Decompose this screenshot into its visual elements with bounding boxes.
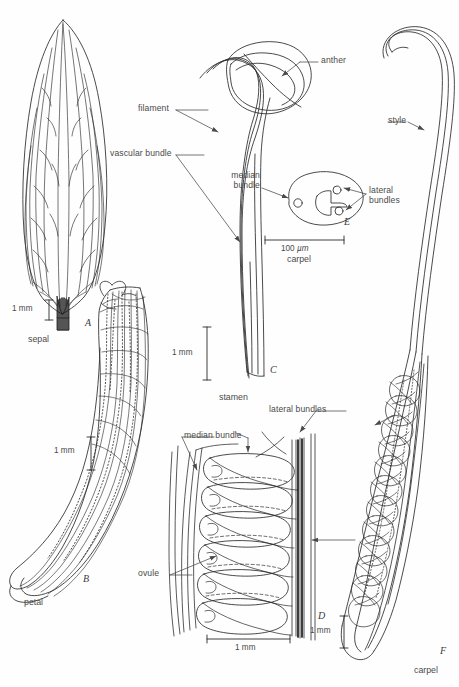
label-median-bundle-d: median bundle <box>184 431 242 441</box>
panel-letter-c: C <box>270 364 277 375</box>
label-anther: anther <box>321 56 346 66</box>
filament-outline <box>200 57 270 378</box>
scale-bar-b <box>87 437 95 470</box>
label-lateral-bundles-d: lateral bundles <box>269 405 326 415</box>
plate-linework <box>0 0 459 687</box>
scale-bar-d <box>207 635 290 643</box>
organ-name-carpel-e: carpel <box>287 254 311 264</box>
scale-bar-c <box>203 327 211 380</box>
scale-label-c: 1 mm <box>172 348 192 357</box>
label-style: style <box>388 116 406 126</box>
leader-lines <box>170 62 424 575</box>
organ-name-carpel-f: carpel <box>414 665 438 675</box>
label-vascular-bundle: vascular bundle <box>110 149 172 159</box>
ovule-detail-left-wall <box>169 446 202 636</box>
label-filament: filament <box>138 104 169 114</box>
panel-letter-d: D <box>318 610 325 621</box>
sepal-venation <box>25 22 104 306</box>
carpel-body-outline <box>341 350 428 660</box>
panel-letter-b: B <box>83 573 89 584</box>
organ-name-stamen: stamen <box>219 392 248 402</box>
ovule-detail-ovules <box>196 454 294 635</box>
label-median-bundle-e-line1: median <box>231 170 260 180</box>
label-median-bundle-e-line2: bundle <box>234 180 260 190</box>
label-lateral-bundles-e-line2: bundles <box>369 195 400 205</box>
panel-letter-a: A <box>85 317 91 328</box>
organ-name-petal: petal <box>24 597 43 607</box>
scale-label-b: 1 mm <box>54 446 74 455</box>
carpel-cross-section <box>289 172 363 226</box>
panel-letter-e: E <box>344 216 350 227</box>
label-ovule: ovule <box>138 569 159 579</box>
label-lateral-bundles-e: lateral bundles <box>369 186 400 206</box>
figure-plate: anther filament vascular bundle median b… <box>0 0 459 687</box>
scale-label-f: 1 mm <box>310 626 330 635</box>
panel-letter-f: F <box>440 645 446 656</box>
scale-label-e-unit: µm <box>297 244 309 253</box>
organ-name-sepal: sepal <box>28 334 49 344</box>
scale-label-d: 1 mm <box>235 643 255 652</box>
scale-bar-e <box>265 236 344 244</box>
scale-bar-a <box>45 300 53 320</box>
scale-label-e-value: 100 <box>281 244 297 253</box>
label-lateral-bundles-e-line1: lateral <box>369 185 393 195</box>
label-median-bundle-e: median bundle <box>228 171 260 191</box>
ovule-detail-dashed <box>206 477 288 598</box>
ovule-detail-right-wall <box>292 434 315 640</box>
scale-label-e: 100 µm <box>281 244 308 253</box>
scale-label-a: 1 mm <box>12 304 32 313</box>
